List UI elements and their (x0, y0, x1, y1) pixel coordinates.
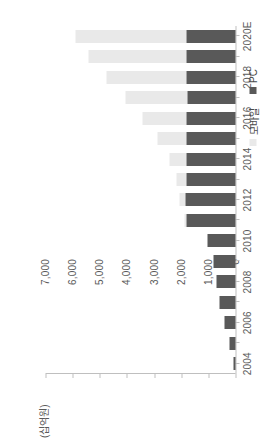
legend-swatch-icon (250, 139, 257, 146)
chart-canvas: (십억원) 01,0002,0003,0004,0005,0006,0007,0… (32, 0, 258, 446)
value-tick (236, 374, 237, 378)
bar-2010 (207, 234, 236, 247)
bar-2012 (180, 194, 236, 207)
bar-2014 (169, 153, 235, 166)
category-tick (236, 117, 240, 118)
bar-segment-pc-2012 (185, 194, 235, 207)
bar-segment-pc-2016 (187, 112, 236, 125)
bar-segment-pc-2013 (187, 173, 236, 186)
bar-segment-pc-2014 (186, 153, 235, 166)
category-tick-label-2004: 2004 (242, 352, 253, 375)
bar-2008 (217, 275, 236, 288)
legend-label: PC (248, 69, 258, 83)
bar-segment-mobile-2014 (169, 153, 186, 166)
bar-segment-pc-2008 (217, 275, 236, 288)
bar-segment-mobile-2013 (177, 173, 187, 186)
value-tick (208, 374, 209, 378)
value-tick (100, 374, 101, 378)
category-tick (236, 158, 240, 159)
bar-segment-mobile-2020E (75, 30, 187, 43)
category-tick (236, 138, 240, 139)
category-tick-label-2012: 2012 (242, 188, 253, 211)
bar-2020E (75, 30, 235, 43)
bar-segment-mobile-2016 (142, 112, 186, 125)
bar-2019 (89, 50, 236, 63)
bar-segment-pc-2018 (187, 71, 236, 84)
bar-segment-pc-2011 (187, 214, 236, 227)
bar-segment-pc-2010 (207, 234, 236, 247)
legend-swatch-icon (250, 87, 257, 94)
legend-item-pc: PC (248, 69, 258, 94)
bar-2018 (106, 71, 235, 84)
category-tick (236, 363, 240, 364)
category-tick (236, 301, 240, 302)
category-tick (236, 342, 240, 343)
bar-segment-mobile-2019 (89, 50, 187, 63)
bar-2016 (142, 112, 235, 125)
category-tick (236, 199, 240, 200)
chart-legend: 모바일PC (246, 69, 258, 146)
bar-2015 (158, 132, 236, 145)
bar-segment-pc-2005 (229, 337, 235, 350)
category-tick (236, 219, 240, 220)
category-tick (236, 240, 240, 241)
category-tick-label-2008: 2008 (242, 270, 253, 293)
category-tick (236, 56, 240, 57)
category-tick (236, 35, 240, 36)
value-tick (181, 374, 182, 378)
bar-segment-mobile-2017 (126, 91, 187, 104)
bar-2011 (185, 214, 236, 227)
bar-2009 (213, 255, 235, 268)
category-tick (236, 260, 240, 261)
bar-segment-pc-2007 (220, 296, 236, 309)
category-tick-label-2010: 2010 (242, 229, 253, 252)
category-tick (236, 76, 240, 77)
plot-area (46, 26, 236, 374)
bar-2005 (229, 337, 235, 350)
value-tick (46, 374, 47, 378)
bar-segment-pc-2020E (187, 30, 236, 43)
bar-segment-pc-2004 (233, 357, 235, 370)
bar-segment-pc-2006 (225, 316, 236, 329)
value-tick (73, 374, 74, 378)
bar-segment-mobile-2018 (106, 71, 187, 84)
category-tick-label-2014: 2014 (242, 148, 253, 171)
bar-segment-pc-2019 (187, 50, 236, 63)
bar-segment-pc-2017 (187, 91, 235, 104)
category-tick-label-2006: 2006 (242, 311, 253, 334)
bar-2013 (177, 173, 236, 186)
value-tick (127, 374, 128, 378)
bar-segment-pc-2009 (213, 255, 235, 268)
category-tick-label-2020E: 2020E (242, 21, 253, 51)
bar-2017 (126, 91, 236, 104)
bar-2006 (225, 316, 236, 329)
value-axis-unit-label: (십억원) (36, 404, 51, 438)
bar-segment-mobile-2015 (158, 132, 187, 145)
category-tick (236, 322, 240, 323)
legend-item-mobile: 모바일 (246, 108, 258, 146)
bar-2007 (220, 296, 236, 309)
category-tick (236, 179, 240, 180)
value-tick (154, 374, 155, 378)
category-tick (236, 97, 240, 98)
bar-segment-pc-2015 (187, 132, 236, 145)
category-tick (236, 281, 240, 282)
bar-2004 (233, 357, 235, 370)
legend-label: 모바일 (246, 108, 258, 135)
